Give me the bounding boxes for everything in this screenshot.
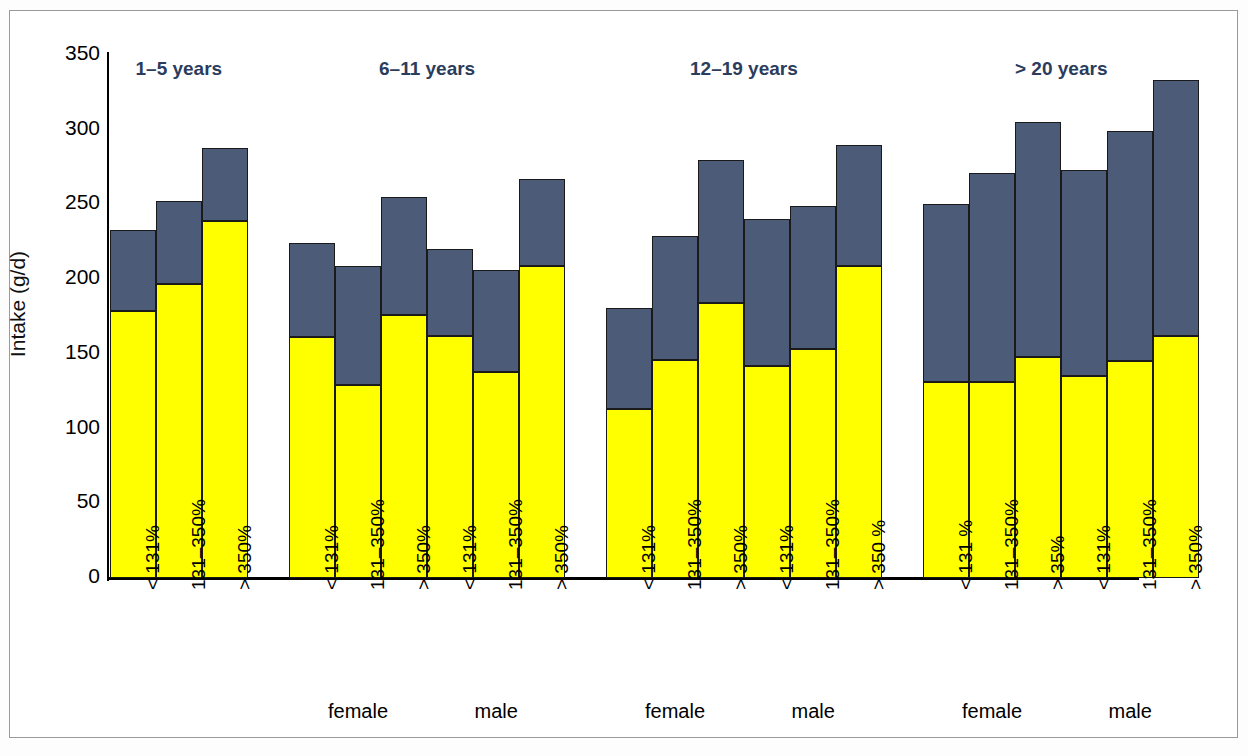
bar-segment-upper bbox=[473, 270, 519, 372]
bar-category-label: > 350% bbox=[730, 525, 752, 590]
bar-segment-upper bbox=[836, 145, 882, 266]
bar-category-label: > 350% bbox=[1185, 525, 1207, 590]
sex-group-label: female bbox=[645, 700, 705, 723]
group-title: 1–5 years bbox=[136, 58, 223, 80]
bar-segment-upper bbox=[698, 160, 744, 303]
bar-category-label: < 131% bbox=[638, 525, 660, 590]
bar-category-label: 131–350% bbox=[505, 499, 527, 590]
bar-segment-upper bbox=[1107, 131, 1153, 361]
bar-category-label: 131–350% bbox=[684, 499, 706, 590]
bar-segment-upper bbox=[1153, 80, 1199, 336]
bar-category-label: < 131% bbox=[776, 525, 798, 590]
bar-category-label: > 350 % bbox=[868, 520, 890, 590]
bar-segment-upper bbox=[156, 201, 202, 283]
bar-segment-upper bbox=[606, 308, 652, 410]
bar-segment-upper bbox=[923, 204, 969, 382]
y-axis-title: Intake (g/d) bbox=[6, 24, 30, 584]
bar-segment-upper bbox=[790, 206, 836, 349]
bar-segment-upper bbox=[427, 249, 473, 336]
bar-segment-upper bbox=[744, 219, 790, 365]
bar-segment-upper bbox=[289, 243, 335, 337]
bar-category-label: > 350% bbox=[234, 525, 256, 590]
group-title: > 20 years bbox=[1015, 58, 1107, 80]
bar-segment-upper bbox=[1015, 122, 1061, 357]
bar-category-label: 131–350% bbox=[1001, 499, 1023, 590]
bar-segment-upper bbox=[652, 236, 698, 360]
bar-category-label: < 131% bbox=[1093, 525, 1115, 590]
bar-category-label: < 131 % bbox=[955, 520, 977, 590]
bar-segment-upper bbox=[969, 173, 1015, 382]
bar-category-label: 131–350% bbox=[1139, 499, 1161, 590]
sex-group-label: male bbox=[1109, 700, 1152, 723]
bar-segment-upper bbox=[335, 266, 381, 386]
figure-container: 350300250200150100500 Intake (g/d) 1–5 y… bbox=[0, 0, 1248, 756]
bar-category-label: < 131% bbox=[321, 525, 343, 590]
bar-category-label: < 131% bbox=[142, 525, 164, 590]
bar-segment-upper bbox=[202, 148, 248, 221]
bar-segment-upper bbox=[110, 230, 156, 311]
bar-category-label: 131–350% bbox=[822, 499, 844, 590]
sex-group-label: female bbox=[962, 700, 1022, 723]
bar-category-label: > 350% bbox=[413, 525, 435, 590]
sex-group-label: male bbox=[475, 700, 518, 723]
bar-category-label: 131–350% bbox=[367, 499, 389, 590]
bar-category-label: < 131% bbox=[459, 525, 481, 590]
bar-category-label: > 350% bbox=[551, 525, 573, 590]
bar-segment-upper bbox=[1061, 170, 1107, 376]
group-title: 12–19 years bbox=[690, 58, 798, 80]
stacked-bar bbox=[1061, 170, 1107, 578]
sex-group-label: female bbox=[328, 700, 388, 723]
bar-category-label: 131–350% bbox=[188, 499, 210, 590]
bar-segment-upper bbox=[519, 179, 565, 266]
bar-segment-upper bbox=[381, 197, 427, 315]
group-title: 6–11 years bbox=[379, 58, 475, 80]
bar-category-label: > 35% bbox=[1047, 536, 1069, 590]
sex-group-label: male bbox=[792, 700, 835, 723]
